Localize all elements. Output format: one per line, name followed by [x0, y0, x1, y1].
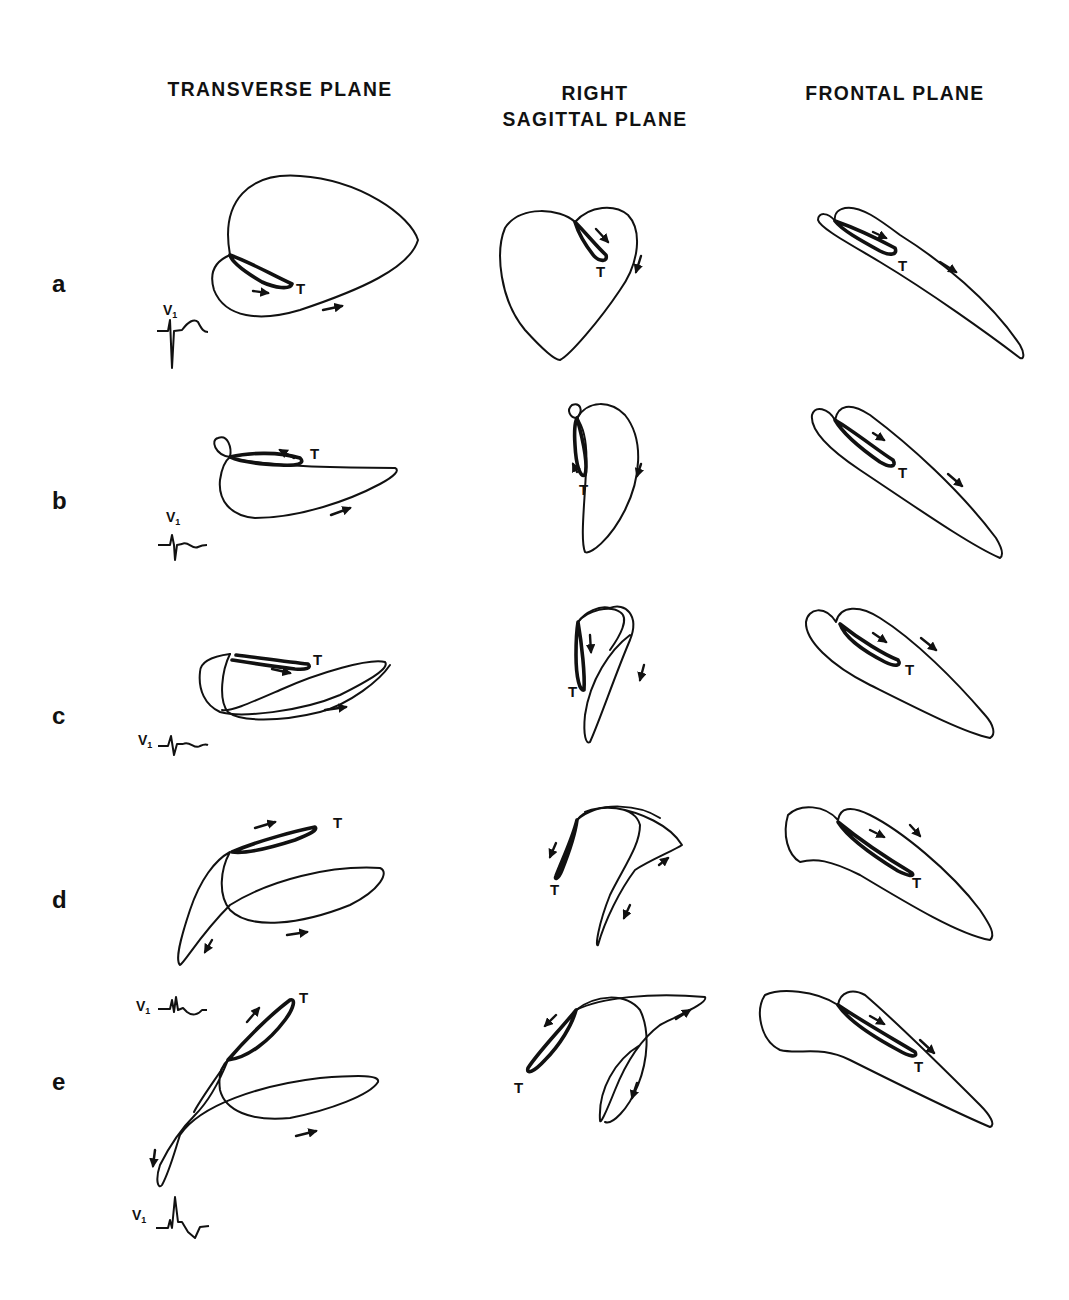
row-e-v1-ecg-top: V1 — [136, 997, 207, 1016]
row-b-v1-ecg: V1 — [158, 509, 207, 560]
row-c-frontal-loop: T — [806, 609, 993, 738]
row-e-frontal-loop: T — [760, 991, 992, 1127]
t-label: T — [912, 874, 921, 891]
row-e-transverse-loop: T — [153, 989, 378, 1186]
t-label: T — [579, 481, 588, 498]
t-label: T — [333, 814, 342, 831]
row-b-frontal-loop: T — [812, 407, 1002, 558]
svg-text:V1: V1 — [138, 732, 152, 750]
t-label: T — [898, 464, 907, 481]
row-c-v1-ecg: V1 — [138, 732, 208, 755]
t-label: T — [299, 989, 308, 1006]
t-label: T — [568, 683, 577, 700]
svg-text:V1: V1 — [136, 998, 150, 1016]
row-e-sagittal-loop: T — [514, 995, 705, 1122]
row-e-v1-ecg-bottom: V1 — [132, 1197, 209, 1238]
t-label: T — [914, 1058, 923, 1075]
row-b-transverse-loop: T — [214, 437, 397, 518]
row-a-frontal-loop: T — [818, 208, 1023, 359]
row-d-sagittal-loop: T — [550, 807, 682, 946]
row-d-frontal-loop: T — [786, 807, 993, 940]
row-b-sagittal-loop: T — [569, 404, 641, 552]
t-label: T — [296, 280, 305, 297]
t-label: T — [898, 257, 907, 274]
t-label: T — [905, 661, 914, 678]
vectorcardiogram-figure: T V1 T T T V1 T — [0, 0, 1069, 1300]
row-a-v1-ecg: V1 — [157, 302, 208, 368]
t-label: T — [596, 263, 605, 280]
t-label: T — [550, 881, 559, 898]
row-a-transverse-loop: T — [212, 176, 418, 317]
row-d-transverse-loop: T — [178, 814, 384, 965]
t-label: T — [313, 651, 322, 668]
row-a-sagittal-loop: T — [500, 208, 641, 360]
row-c-transverse-loop: T — [200, 651, 390, 720]
t-label: T — [310, 445, 319, 462]
svg-text:V1: V1 — [166, 509, 180, 527]
svg-text:V1: V1 — [132, 1207, 146, 1225]
t-label: T — [514, 1079, 523, 1096]
row-c-sagittal-loop: T — [568, 607, 644, 743]
svg-text:V1: V1 — [163, 302, 177, 320]
